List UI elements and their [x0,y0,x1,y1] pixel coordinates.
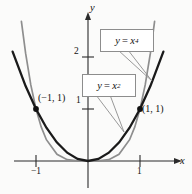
tick-label-y-1: 1 [76,95,81,105]
quadratic-eq-operator: = [102,80,112,91]
label-left-intersection: (−1, 1) [38,92,65,103]
tick-label-y-2: 2 [74,46,79,56]
tick-label-x-pos1: 1 [137,166,142,176]
tick-label-x-neg1: −1 [31,166,41,176]
plot-canvas [0,0,192,194]
quartic-eq-operator: = [120,35,130,46]
y-axis-arrowhead [85,12,91,20]
label-right-intersection: (1, 1) [142,103,164,114]
quadratic-leader-line [96,95,124,132]
callout-quartic: y=x4 [100,29,154,52]
axis-label-y: y [90,2,95,13]
axis-label-x: x [180,155,185,166]
point-left-intersection [33,106,39,112]
function-graph-figure: y=x4 y=x2 (−1, 1) (1, 1) −1 1 1 2 x y [0,0,192,194]
callout-quadratic: y=x2 [82,74,136,97]
